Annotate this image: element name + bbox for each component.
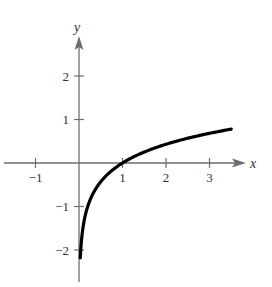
curve-log-function [80, 129, 231, 258]
x-axis-ticks: −1123 [29, 158, 213, 185]
x-tick-label: 3 [206, 170, 213, 185]
x-tick-label: 2 [163, 170, 170, 185]
x-axis-label: x [249, 156, 257, 171]
x-tick-label: 1 [119, 170, 126, 185]
y-tick-label: −1 [55, 199, 69, 214]
y-tick-label: 1 [63, 112, 70, 127]
graph-log-function: −1123 21−1−2 x y [0, 0, 272, 287]
y-tick-label: 2 [63, 69, 70, 84]
y-tick-label: −2 [55, 243, 69, 258]
y-axis-label: y [72, 20, 81, 35]
x-tick-label: −1 [29, 170, 43, 185]
